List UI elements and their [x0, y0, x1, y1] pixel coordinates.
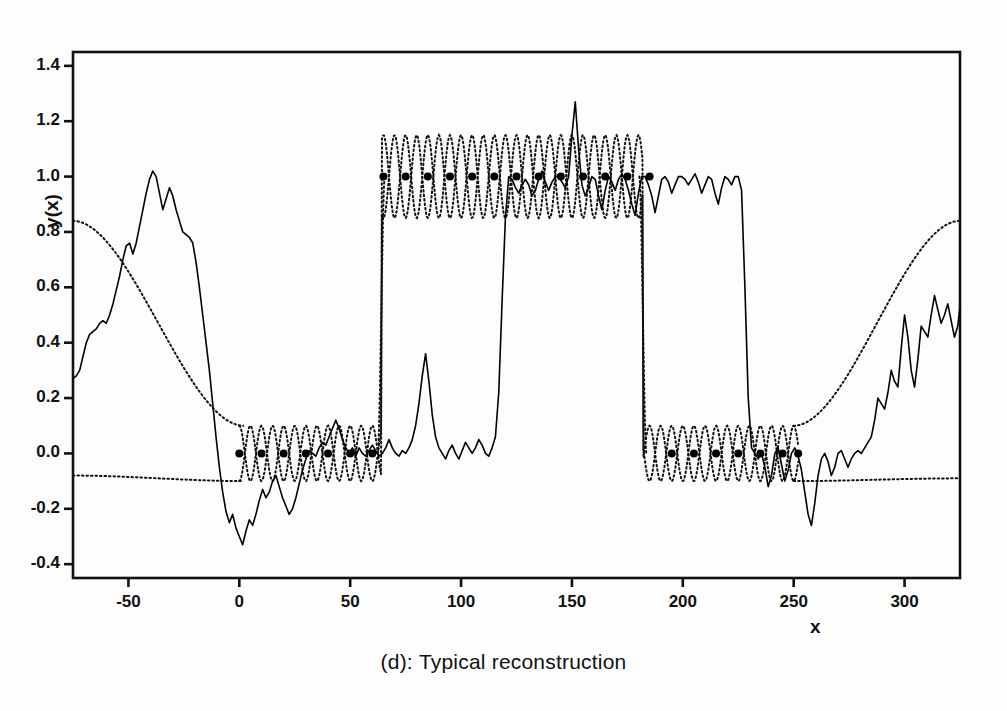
x-tick-label: 250 — [754, 592, 834, 612]
x-tick-label: 0 — [199, 592, 279, 612]
sample-point-marker — [712, 449, 720, 457]
x-tick-label: 200 — [643, 592, 723, 612]
y-tick-label: 0.2 — [0, 387, 60, 407]
x-tick-label: 150 — [532, 592, 612, 612]
x-tick-label: 300 — [865, 592, 945, 612]
sample-point-marker — [779, 449, 787, 457]
sample-point-marker — [646, 173, 654, 181]
sample-point-marker — [257, 449, 265, 457]
sample-point-marker — [446, 173, 454, 181]
caption-tag: (d): — [381, 650, 413, 673]
x-tick-label: -50 — [88, 592, 168, 612]
sample-point-marker — [324, 449, 332, 457]
sample-point-marker — [513, 173, 521, 181]
figure-caption: (d):Typical reconstruction — [0, 650, 1007, 674]
sample-point-marker — [734, 449, 742, 457]
plot-frame — [73, 52, 960, 578]
sample-point-marker — [579, 173, 587, 181]
sample-point-marker — [535, 173, 543, 181]
y-tick-label: 0.6 — [0, 276, 60, 296]
sample-point-marker — [794, 449, 802, 457]
sample-point-marker — [623, 173, 631, 181]
sample-point-marker — [280, 449, 288, 457]
y-tick-label: -0.2 — [0, 498, 60, 518]
x-tick-label: 50 — [310, 592, 390, 612]
y-tick-label: 0.4 — [0, 332, 60, 352]
sample-point-marker — [302, 449, 310, 457]
y-axis-label: y(x) — [41, 151, 63, 271]
sample-point-marker — [490, 173, 498, 181]
y-tick-label: 0.0 — [0, 442, 60, 462]
reconstruction-solid-series — [73, 102, 960, 545]
sample-point-marker — [668, 449, 676, 457]
sample-point-markers — [235, 173, 802, 458]
y-tick-label: 1.4 — [0, 55, 60, 75]
sample-point-marker — [690, 449, 698, 457]
sample-point-marker — [368, 449, 376, 457]
caption-text: Typical reconstruction — [419, 650, 627, 673]
sample-point-marker — [557, 173, 565, 181]
sample-point-marker — [601, 173, 609, 181]
x-tick-label: 100 — [421, 592, 501, 612]
sample-point-marker — [235, 449, 243, 457]
sample-point-marker — [424, 173, 432, 181]
x-axis-label: x — [810, 616, 821, 638]
figure-panel: -0.4-0.20.00.20.40.60.81.01.21.4 -500501… — [0, 0, 1007, 711]
y-tick-label: -0.4 — [0, 553, 60, 573]
axis-ticks — [64, 66, 905, 587]
sample-point-marker — [379, 173, 387, 181]
y-tick-label: 1.2 — [0, 110, 60, 130]
sample-point-marker — [346, 449, 354, 457]
sample-point-marker — [402, 173, 410, 181]
sample-point-marker — [756, 449, 764, 457]
sample-point-marker — [468, 173, 476, 181]
